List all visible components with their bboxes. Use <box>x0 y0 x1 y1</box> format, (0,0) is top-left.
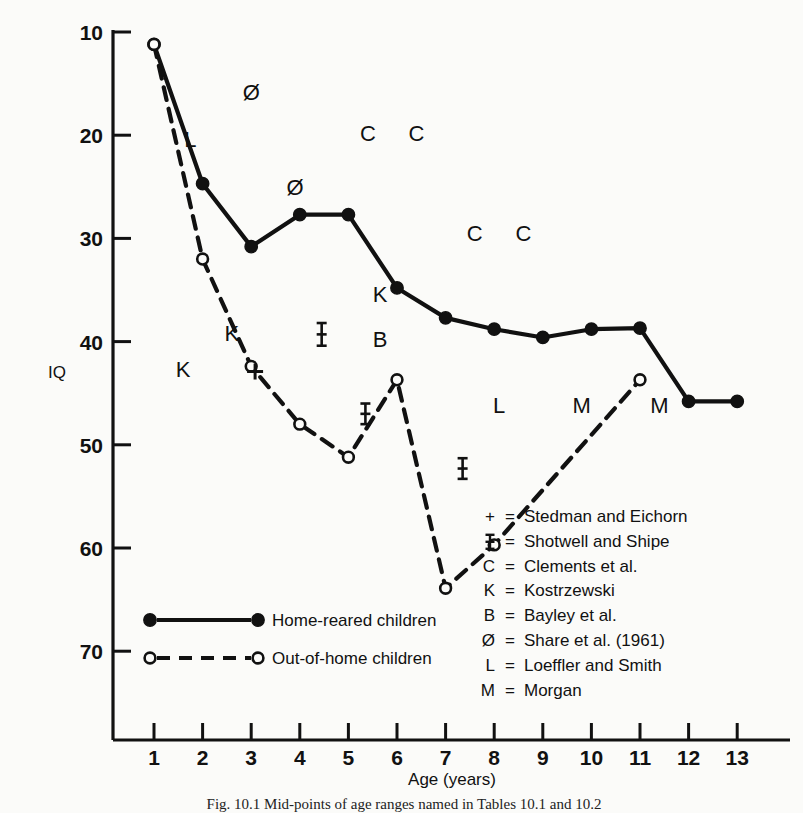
symbol-key-label: Morgan <box>524 681 582 700</box>
y-tick-label: 60 <box>80 537 103 560</box>
symbol-key-equals: = <box>505 581 515 600</box>
study-annotation-m: M <box>650 393 668 418</box>
symbol-key-symbol: B <box>484 606 495 625</box>
symbol-key-entry: =Shotwell and Shipe <box>486 532 670 551</box>
y-tick-label: 50 <box>80 434 103 457</box>
series-legend-marker <box>253 653 264 664</box>
series-legend-label: Out-of-home children <box>272 649 432 668</box>
series-legend-marker <box>144 614 156 626</box>
x-tick-label: 1 <box>148 746 160 769</box>
data-point-marker <box>537 331 549 343</box>
study-annotation-l: L <box>184 127 196 152</box>
study-annotation-c: C <box>408 121 424 146</box>
data-point-marker <box>197 254 208 265</box>
data-point-marker <box>634 322 646 334</box>
x-tick-label: 10 <box>580 746 603 769</box>
data-point-marker <box>585 323 597 335</box>
data-point-marker <box>488 323 500 335</box>
y-tick-label: 20 <box>80 124 103 147</box>
symbol-key-entry: C=Clements et al. <box>483 557 638 576</box>
study-annotation-c: C <box>467 221 483 246</box>
symbol-key-label: Shotwell and Shipe <box>524 532 670 551</box>
data-point-marker <box>343 452 354 463</box>
symbol-key-symbol: + <box>485 507 495 526</box>
chart-background <box>0 0 803 813</box>
symbol-key-label: Kostrzewski <box>524 581 615 600</box>
symbol-key-equals: = <box>505 606 515 625</box>
data-point-marker <box>682 395 694 407</box>
figure-caption: Fig. 10.1 Mid-points of age ranges named… <box>207 796 602 812</box>
y-tick-label: 10 <box>80 21 103 44</box>
study-annotation-k: K <box>373 282 388 307</box>
x-tick-label: 5 <box>343 746 355 769</box>
x-tick-label: 11 <box>629 746 652 769</box>
symbol-key-label: Loeffler and Smith <box>524 656 662 675</box>
y-axis-title: IQ <box>48 363 66 382</box>
data-point-marker <box>391 282 403 294</box>
x-axis-title: Age (years) <box>408 770 496 789</box>
data-point-marker <box>245 240 257 252</box>
figure-container: 70605040302010 12345678910111213 IQ Age … <box>0 0 803 813</box>
study-annotation-k: K <box>176 357 191 382</box>
series-legend-marker <box>252 614 264 626</box>
data-point-marker <box>440 583 451 594</box>
symbol-key-label: Bayley et al. <box>524 606 617 625</box>
study-annotation-m: M <box>573 393 591 418</box>
symbol-key-symbol: Ø <box>482 631 495 650</box>
study-annotation-oe: Ø <box>243 80 260 105</box>
x-tick-label: 12 <box>677 746 700 769</box>
y-tick-label: 40 <box>80 331 103 354</box>
series-legend-marker <box>145 653 156 664</box>
symbol-key-symbol: M <box>481 681 495 700</box>
symbol-key-label: Share et al. (1961) <box>524 631 665 650</box>
x-tick-label: 6 <box>391 746 403 769</box>
symbol-key-symbol: L <box>486 656 495 675</box>
symbol-key-equals: = <box>505 507 515 526</box>
x-tick-label: 3 <box>245 746 257 769</box>
x-tick-label: 4 <box>294 746 306 769</box>
symbol-key-equals: = <box>505 557 515 576</box>
x-tick-label: 2 <box>197 746 209 769</box>
study-annotation-c: C <box>515 221 531 246</box>
symbol-key-equals: = <box>505 532 515 551</box>
data-point-marker <box>342 208 354 220</box>
data-point-marker <box>294 419 305 430</box>
study-annotation-c: C <box>360 121 376 146</box>
x-tick-label: 13 <box>726 746 749 769</box>
data-point-marker <box>731 395 743 407</box>
data-point-marker <box>196 178 208 190</box>
symbol-key-label: Stedman and Eichorn <box>524 507 688 526</box>
study-annotation-b: B <box>373 327 388 352</box>
symbol-key-entry: Ø=Share et al. (1961) <box>482 631 665 650</box>
data-point-marker <box>294 208 306 220</box>
y-tick-label: 70 <box>80 640 103 663</box>
series-legend-label: Home-reared children <box>272 611 436 630</box>
symbol-key-equals: = <box>505 681 515 700</box>
x-tick-label: 7 <box>440 746 452 769</box>
y-tick-label: 30 <box>80 227 103 250</box>
data-point-marker <box>439 312 451 324</box>
study-annotation-oe: Ø <box>286 175 303 200</box>
symbol-key-entry: L=Loeffler and Smith <box>486 656 662 675</box>
data-point-marker <box>392 374 403 385</box>
symbol-key-label: Clements et al. <box>524 557 637 576</box>
data-point-marker <box>149 39 160 50</box>
study-annotation-k: K <box>224 321 239 346</box>
x-tick-label: 9 <box>537 746 549 769</box>
symbol-key-symbol: C <box>483 557 495 576</box>
symbol-key-symbol: K <box>484 581 496 600</box>
study-annotation-l: L <box>493 393 505 418</box>
x-tick-label: 8 <box>488 746 500 769</box>
symbol-key-equals: = <box>505 631 515 650</box>
iq-by-age-line-chart: 70605040302010 12345678910111213 IQ Age … <box>0 0 803 813</box>
symbol-key-equals: = <box>505 656 515 675</box>
data-point-marker <box>635 374 646 385</box>
